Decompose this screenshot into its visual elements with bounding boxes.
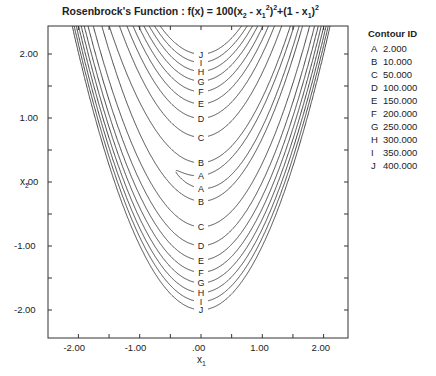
contour-label-A: A [198,184,204,194]
contour-line-J [17,0,194,309]
legend-id: A [371,42,383,55]
contour-label-A: A [198,171,204,181]
contour-label-D: D [198,241,205,251]
legend-item: C50.000 [368,68,417,81]
contour-label-B: B [198,197,204,207]
legend-item: J400.000 [368,159,417,172]
legend-level: 100.000 [383,82,417,93]
y-axis-label: x2 [20,176,29,189]
contour-label-E: E [198,99,204,109]
x-tick-label: 2.00 [312,342,331,353]
contour-label-D: D [198,114,205,124]
contour-line-J [17,0,194,53]
legend-id: G [371,120,383,133]
legend-id: I [371,146,383,159]
contour-label-G: G [197,278,204,288]
y-tick-label: -1.00 [14,240,36,251]
contour-line-F [208,0,385,272]
legend-item: I350.000 [368,146,417,159]
contour-label-G: G [197,77,204,87]
contour-line-C [17,0,194,226]
contour-line-I [17,0,194,301]
x-tick-label: .00 [192,342,205,353]
contour-label-C: C [198,222,205,232]
contour-line-I [208,0,385,301]
contour-label-J: J [199,50,204,60]
x-tick-label: 1.00 [250,342,269,353]
contour-line-G [17,0,194,282]
legend-level: 400.000 [383,160,417,171]
contour-label-F: F [198,268,204,278]
legend-rows: A2.000B10.000C50.000D100.000E150.000F200… [368,42,417,172]
legend-item: B10.000 [368,55,417,68]
legend-id: J [371,159,383,172]
contour-line-A [176,172,194,187]
contour-label-F: F [198,87,204,97]
legend-id: C [371,68,383,81]
x-tick-label: -2.00 [63,342,85,353]
legend-level: 200.000 [383,108,417,119]
legend-id: H [371,133,383,146]
legend-item: D100.000 [368,81,417,94]
contour-label-B: B [198,158,204,168]
contour-label-J: J [199,305,204,315]
contour-line-A [176,171,194,176]
legend-id: E [371,94,383,107]
x-tick-label: -1.00 [125,342,147,353]
legend-id: B [371,55,383,68]
contour-label-C: C [198,133,205,143]
contour-line-B [208,0,385,201]
contour-line-D [17,0,194,118]
legend-level: 350.000 [383,147,417,158]
contour-line-F [17,0,194,91]
contour-label-E: E [198,256,204,266]
legend-item: E150.000 [368,94,417,107]
legend-item: G250.000 [368,120,417,133]
legend-level: 150.000 [383,95,417,106]
legend-level: 50.000 [383,69,412,80]
x-axis-label: x1 [197,354,206,367]
legend: Contour ID A2.000B10.000C50.000D100.000E… [368,28,417,172]
contour-line-D [17,0,194,245]
contour-line-G [208,0,385,282]
legend-level: 10.000 [383,56,412,67]
legend-level: 250.000 [383,121,417,132]
legend-level: 2.000 [383,43,407,54]
legend-id: D [371,81,383,94]
legend-title: Contour ID [368,28,417,39]
contour-line-B [69,0,194,200]
contour-line-E [208,0,385,259]
y-tick-label: -2.00 [14,304,36,315]
legend-item: A2.000 [368,42,417,55]
y-tick-label: 1.00 [20,112,39,123]
legend-level: 300.000 [383,134,417,145]
legend-item: F200.000 [368,107,417,120]
contour-label-H: H [198,67,205,77]
legend-id: F [371,107,383,120]
legend-item: H300.000 [368,133,417,146]
y-tick-label: 2.00 [20,48,39,59]
